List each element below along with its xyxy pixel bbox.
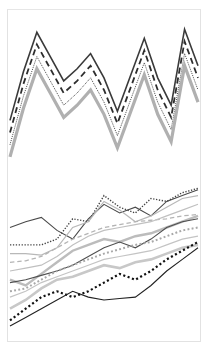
bottom-spaghetti-chart [8,180,200,335]
series-line-line-dark-solid-mid [10,219,198,283]
top-zigzag-chart [8,10,200,170]
series-line-line-gray-solid-b [10,204,198,271]
series-line-line-gray-solid-d [10,236,198,297]
series-line-series-solid-dark [10,29,198,120]
series-line-series-dashed-dark [10,41,198,132]
series-line-line-dark-dotted-upper [10,188,198,245]
bottom-series-group [10,188,198,326]
figure-panel [0,0,207,355]
series-line-series-dotted-thin [10,54,198,145]
top-series-group [10,29,198,157]
